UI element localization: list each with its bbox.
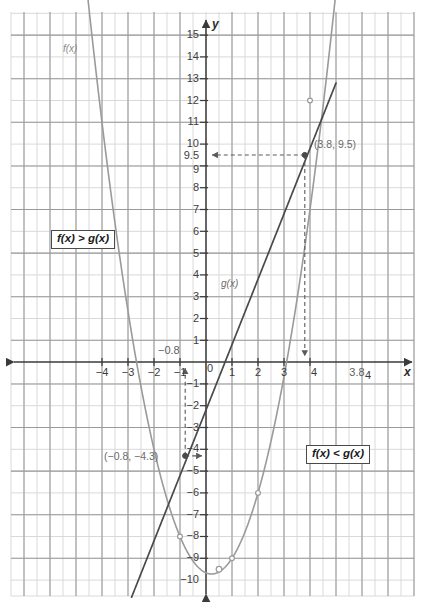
point-label-right: (3.8, 9.5) xyxy=(314,139,356,150)
dash-label-neg08: −0.8 xyxy=(158,345,180,356)
axes xyxy=(14,20,412,594)
curve-label-fx: f(x) xyxy=(63,44,77,54)
x-tick-4-right: 4 xyxy=(358,370,378,381)
marker-point xyxy=(256,491,261,496)
y-tick-neg7: −7 xyxy=(177,509,199,520)
y-tick-neg5: −5 xyxy=(177,465,199,476)
marker-point xyxy=(230,556,235,561)
x-tick-2: 2 xyxy=(248,367,268,378)
y-tick-4: 4 xyxy=(181,269,199,280)
intersection-marker-left xyxy=(183,453,188,458)
y-tick-7: 7 xyxy=(181,204,199,215)
x-tick-0: 0 xyxy=(200,363,220,374)
x-tick-3: 3 xyxy=(274,367,294,378)
x-axis-label: x xyxy=(404,366,411,378)
y-tick-13: 13 xyxy=(181,73,199,84)
y-tick-neg3: −3 xyxy=(177,422,199,433)
x-tick-neg3: −3 xyxy=(118,367,138,378)
y-tick-12: 12 xyxy=(181,95,199,106)
graph-figure: 15 14 13 12 11 10 9.5 9 8 7 6 5 4 3 2 1 … xyxy=(0,0,426,607)
curves-layer xyxy=(85,0,336,597)
point-label-left: (−0.8, −4.3) xyxy=(104,451,158,462)
grid-major xyxy=(11,12,414,596)
region-label-above: f(x) > g(x) xyxy=(51,230,115,249)
y-tick-5: 5 xyxy=(181,248,199,259)
marker-point xyxy=(308,98,313,103)
y-tick-14: 14 xyxy=(181,51,199,62)
intersection-marker-right xyxy=(302,152,307,157)
x-tick-1: 1 xyxy=(222,367,242,378)
y-tick-neg2: −2 xyxy=(177,400,199,411)
y-tick-9: 9 xyxy=(181,164,199,175)
y-tick-15: 15 xyxy=(181,29,199,40)
y-tick-3: 3 xyxy=(181,291,199,302)
y-tick-neg9: −9 xyxy=(177,552,199,563)
y-tick-9-5: 9.5 xyxy=(176,150,199,161)
curve-label-gx: g(x) xyxy=(221,279,238,289)
y-tick-neg6: −6 xyxy=(177,487,199,498)
y-tick-neg1: −1 xyxy=(177,378,199,389)
y-tick-10: 10 xyxy=(181,138,199,149)
x-tick-neg2: −2 xyxy=(144,367,164,378)
y-axis-label: y xyxy=(212,18,219,30)
y-tick-neg4: −4 xyxy=(177,443,199,454)
parabola-fx xyxy=(85,0,336,574)
marker-point xyxy=(216,566,222,572)
x-tick-neg4: −4 xyxy=(92,367,112,378)
grid-minor xyxy=(11,12,414,596)
x-tick-neg1: −1 xyxy=(170,367,190,378)
coordinate-plane xyxy=(0,0,426,607)
y-tick-6: 6 xyxy=(181,226,199,237)
y-tick-2: 2 xyxy=(181,313,199,324)
y-tick-neg8: −8 xyxy=(177,530,199,541)
y-tick-11: 11 xyxy=(181,116,199,127)
y-tick-1: 1 xyxy=(181,335,199,346)
x-tick-4: 4 xyxy=(304,367,324,378)
y-tick-8: 8 xyxy=(181,182,199,193)
region-label-below: f(x) < g(x) xyxy=(306,445,370,464)
y-tick-neg10: −10 xyxy=(173,574,199,585)
